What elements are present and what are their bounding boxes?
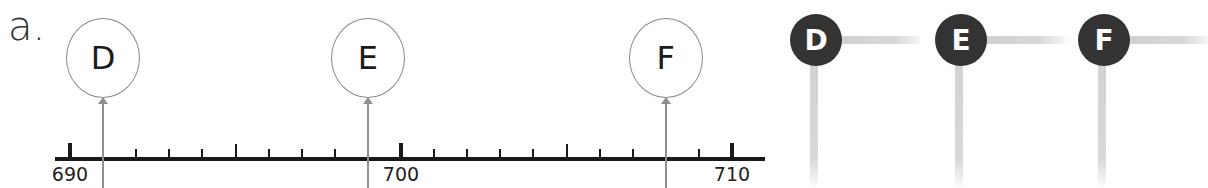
balloon-circle: D (66, 18, 140, 98)
answer-vertical-line (810, 50, 818, 185)
tick-mark (168, 149, 170, 157)
tick-mark (399, 143, 403, 157)
tick-mark (68, 143, 72, 157)
answer-horizontal-line (835, 36, 920, 44)
letter-badge-icon: F (1078, 14, 1130, 66)
tick-mark (466, 149, 468, 157)
balloon-string (102, 102, 104, 188)
tick-label: 710 (714, 163, 750, 185)
tick-mark (730, 143, 734, 157)
balloon-string (665, 102, 667, 188)
answer-horizontal-line (980, 36, 1065, 44)
tick-label: 700 (383, 163, 419, 185)
tick-mark (201, 149, 203, 157)
part-label: a. (8, 6, 45, 46)
tick-mark (566, 144, 568, 157)
tick-mark (698, 149, 700, 157)
tick-mark (499, 149, 501, 157)
tick-mark (334, 149, 336, 157)
letter-badge-icon: E (935, 14, 987, 66)
tick-mark (301, 149, 303, 157)
tick-mark (135, 149, 137, 157)
tick-mark (433, 149, 435, 157)
answer-vertical-line (955, 50, 963, 185)
answer-horizontal-line (1123, 36, 1208, 44)
answer-vertical-line (1098, 50, 1106, 185)
balloon-string (367, 102, 369, 188)
tick-mark (599, 149, 601, 157)
letter-badge-icon: D (790, 14, 842, 66)
tick-label: 690 (52, 163, 88, 185)
tick-mark (235, 144, 237, 157)
tick-mark (268, 149, 270, 157)
balloon-circle: E (331, 18, 405, 98)
axis-line (55, 157, 765, 161)
tick-mark (532, 149, 534, 157)
tick-mark (632, 149, 634, 157)
balloon-circle: F (629, 18, 703, 98)
